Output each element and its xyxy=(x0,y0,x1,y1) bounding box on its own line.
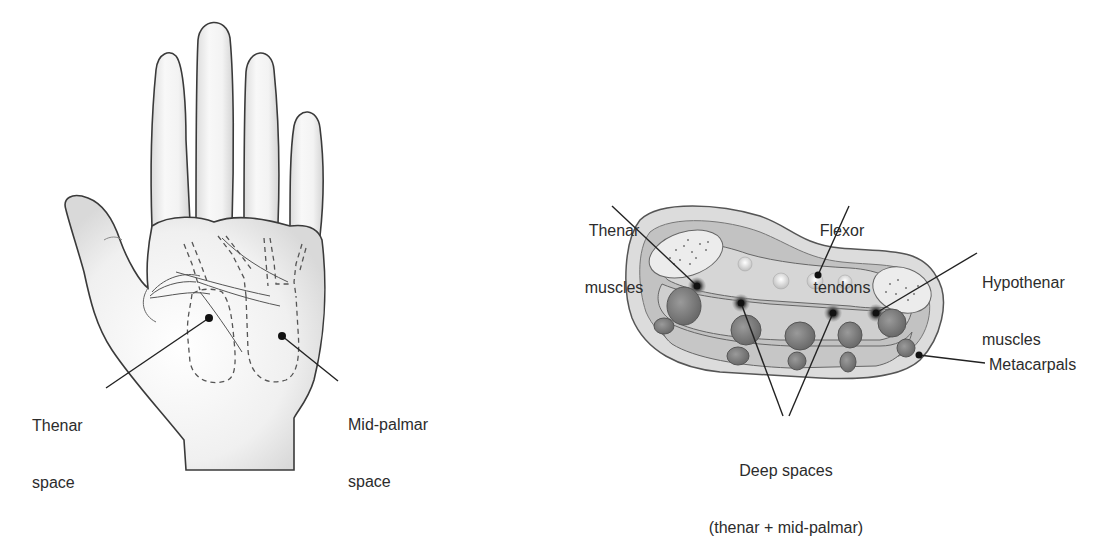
label-thenar-space-line1: Thenar xyxy=(32,416,83,435)
thenar-space-dot xyxy=(205,314,213,322)
hand-outline xyxy=(151,22,323,236)
label-metacarpals: Metacarpals xyxy=(989,355,1076,374)
hand-illustration-panel: Thenar space Mid-palmar space xyxy=(0,0,440,498)
cross-section-panel: Thenar muscles Flexor tendons Hypothenar… xyxy=(540,0,1104,498)
label-deep-spaces-line1: Deep spaces xyxy=(696,461,876,480)
label-thenar-muscles-line2: muscles xyxy=(574,278,654,297)
label-midpalmar-space-line1: Mid-palmar xyxy=(348,415,428,434)
label-thenar-space-line2: space xyxy=(32,473,83,492)
label-thenar-space: Thenar space xyxy=(32,378,83,530)
label-flexor-tendons-line2: tendons xyxy=(802,278,882,297)
midpalmar-space-dot xyxy=(278,332,286,340)
palm-outline xyxy=(65,196,325,470)
label-flexor-tendons: Flexor tendons xyxy=(802,183,882,335)
label-midpalmar-space: Mid-palmar space xyxy=(348,377,428,529)
label-deep-spaces-line2: (thenar + mid-palmar) xyxy=(696,518,876,537)
label-thenar-muscles: Thenar muscles xyxy=(574,183,654,335)
label-hypothenar-muscles-line2: muscles xyxy=(982,330,1065,349)
label-flexor-tendons-line1: Flexor xyxy=(802,221,882,240)
label-hypothenar-muscles-line1: Hypothenar xyxy=(982,273,1065,292)
label-midpalmar-space-line2: space xyxy=(348,472,428,491)
label-deep-spaces: Deep spaces (thenar + mid-palmar) xyxy=(696,423,876,540)
label-thenar-muscles-line1: Thenar xyxy=(574,221,654,240)
